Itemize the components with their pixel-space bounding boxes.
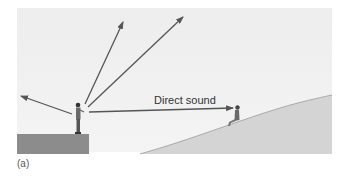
direct-sound-label: Direct sound <box>154 94 216 106</box>
sound-diagram: Direct sound (a) <box>0 0 360 179</box>
diagram-canvas: Direct sound <box>0 0 360 179</box>
ground-gap <box>89 152 140 154</box>
cliff <box>17 134 89 154</box>
figure-caption: (a) <box>17 158 29 169</box>
